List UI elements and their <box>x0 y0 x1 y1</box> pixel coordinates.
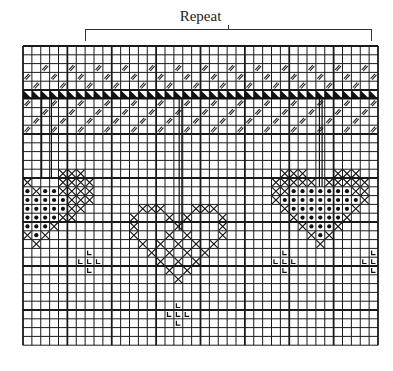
dot-stitch-icon <box>292 198 296 202</box>
dot-stitch-icon <box>52 198 56 202</box>
dot-stitch-icon <box>61 207 65 211</box>
l-stitch-icon <box>88 250 92 254</box>
l-stitch-icon <box>168 312 172 316</box>
dot-stitch-icon <box>25 224 29 228</box>
dot-stitch-icon <box>300 189 304 193</box>
l-stitch-icon <box>185 312 189 316</box>
l-stitch-icon <box>88 259 92 263</box>
l-stitch-icon <box>176 321 180 325</box>
dot-stitch-icon <box>336 198 340 202</box>
dot-stitch-icon <box>354 198 358 202</box>
dot-stitch-icon <box>345 198 349 202</box>
dot-stitch-icon <box>318 233 322 237</box>
dot-stitch-icon <box>43 224 47 228</box>
dot-stitch-icon <box>309 189 313 193</box>
dot-stitch-icon <box>34 198 38 202</box>
repeat-bracket <box>85 29 372 41</box>
dot-stitch-icon <box>318 198 322 202</box>
stitch-chart-grid <box>22 45 379 346</box>
l-stitch-icon <box>88 268 92 272</box>
l-stitch-icon <box>283 259 287 263</box>
dot-stitch-icon <box>25 207 29 211</box>
dot-stitch-icon <box>336 216 340 220</box>
dot-stitch-icon <box>336 207 340 211</box>
dot-stitch-icon <box>318 189 322 193</box>
dot-stitch-icon <box>34 224 38 228</box>
l-stitch-icon <box>363 259 367 263</box>
l-stitch-icon <box>79 259 83 263</box>
repeat-label: Repeat <box>0 8 393 25</box>
dot-stitch-icon <box>34 233 38 237</box>
dot-stitch-icon <box>52 207 56 211</box>
dot-stitch-icon <box>25 216 29 220</box>
dot-stitch-icon <box>292 189 296 193</box>
dot-stitch-icon <box>327 224 331 228</box>
dot-stitch-icon <box>318 207 322 211</box>
dot-stitch-icon <box>52 189 56 193</box>
dot-stitch-icon <box>34 207 38 211</box>
l-stitch-icon <box>372 250 376 254</box>
l-stitch-icon <box>283 250 287 254</box>
dot-stitch-icon <box>345 189 349 193</box>
dot-stitch-icon <box>327 207 331 211</box>
dot-stitch-icon <box>318 224 322 228</box>
dot-stitch-icon <box>25 198 29 202</box>
l-stitch-icon <box>372 259 376 263</box>
dot-stitch-icon <box>43 216 47 220</box>
dot-stitch-icon <box>34 216 38 220</box>
dot-stitch-icon <box>43 198 47 202</box>
dot-stitch-icon <box>327 198 331 202</box>
dot-stitch-icon <box>345 207 349 211</box>
l-stitch-icon <box>372 268 376 272</box>
l-stitch-icon <box>176 303 180 307</box>
dot-stitch-icon <box>309 198 313 202</box>
dot-stitch-icon <box>327 216 331 220</box>
dot-stitch-icon <box>52 216 56 220</box>
dot-stitch-icon <box>318 216 322 220</box>
dot-stitch-icon <box>300 198 304 202</box>
dot-stitch-icon <box>336 189 340 193</box>
dot-stitch-icon <box>283 198 287 202</box>
dot-stitch-icon <box>61 198 65 202</box>
dot-stitch-icon <box>43 207 47 211</box>
dot-stitch-icon <box>43 189 47 193</box>
dot-stitch-icon <box>309 224 313 228</box>
dot-stitch-icon <box>292 207 296 211</box>
dot-stitch-icon <box>309 207 313 211</box>
dot-stitch-icon <box>327 189 331 193</box>
l-stitch-icon <box>176 312 180 316</box>
l-stitch-icon <box>274 259 278 263</box>
l-stitch-icon <box>97 259 101 263</box>
dot-stitch-icon <box>309 216 313 220</box>
dot-stitch-icon <box>25 189 29 193</box>
l-stitch-icon <box>292 259 296 263</box>
l-stitch-icon <box>283 268 287 272</box>
dot-stitch-icon <box>300 207 304 211</box>
dot-stitch-icon <box>300 216 304 220</box>
